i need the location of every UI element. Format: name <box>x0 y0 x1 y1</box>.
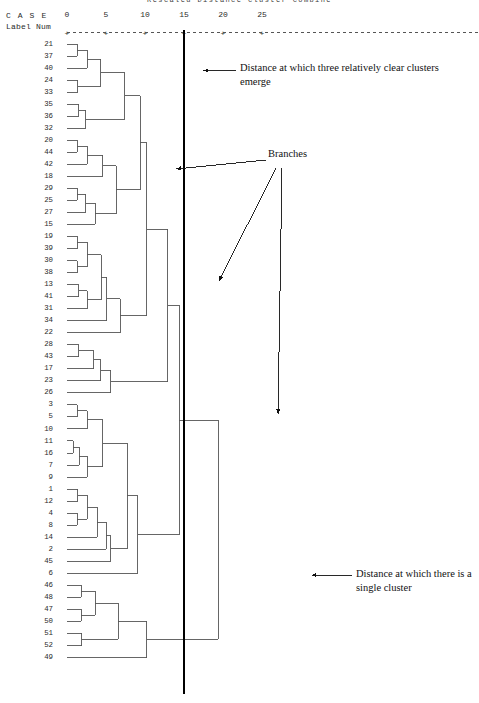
annotation-single-cluster: Distance at which there is a single clus… <box>356 567 479 594</box>
annotation-branches: Branches <box>268 147 307 161</box>
dendrogram-branches <box>67 44 218 658</box>
axis-dotted-line: ++++++ <box>65 29 479 38</box>
dendrogram-plot: ++++++ <box>0 0 479 703</box>
annotation-three-clusters: Distance at which three relatively clear… <box>240 61 460 88</box>
annotation-leaders <box>176 68 352 577</box>
